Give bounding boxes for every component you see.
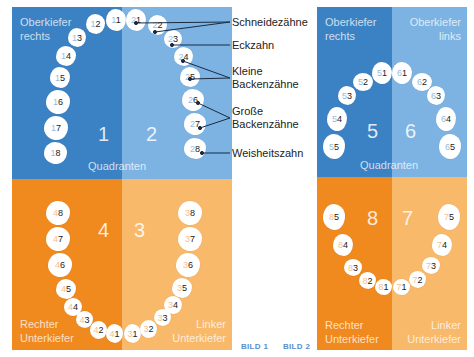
quadrant-2-number: 2 (146, 123, 157, 146)
tooth-81: 81 (375, 279, 392, 295)
tooth-35: 35 (172, 278, 192, 298)
tooth-37: 37 (178, 227, 202, 251)
tooth-23: 23 (164, 30, 182, 48)
tooth-12: 12 (86, 14, 105, 34)
tooth-45: 45 (56, 279, 76, 299)
quadrant-6-label: Oberkiefer links (410, 15, 461, 43)
tooth-17: 17 (44, 116, 68, 140)
tooth-51: 51 (372, 62, 392, 84)
label-line: Oberkiefer (325, 15, 376, 29)
quadrant-8-label: Rechter Unterkiefer (325, 318, 379, 346)
tooth-82: 82 (359, 272, 376, 289)
bild1-diagram: Oberkiefer rechts 1 2 Quadranten 4 Recht… (12, 7, 232, 350)
label-line: Rechter (20, 317, 74, 331)
tooth-25: 25 (180, 67, 200, 87)
quadrant-7-number: 7 (402, 207, 413, 230)
tooth-41: 41 (106, 324, 123, 343)
tooth-71: 71 (393, 279, 410, 295)
tooth-85: 85 (323, 204, 345, 230)
tooth-34: 34 (164, 296, 182, 314)
quadrant-5-number: 5 (367, 120, 378, 143)
quadrant-6-number: 6 (405, 120, 416, 143)
quadranten-label: Quadranten (88, 160, 146, 172)
label-line: Rechter (325, 318, 379, 332)
tooth-52: 52 (353, 73, 373, 91)
label-line: Unterkiefer (20, 331, 74, 345)
tooth-13: 13 (68, 28, 86, 47)
quadranten-label: Quadranten (360, 159, 418, 171)
label-line: links (410, 29, 461, 43)
tooth-46: 46 (48, 253, 72, 277)
tooth-83: 83 (344, 259, 362, 276)
tooth-42: 42 (90, 321, 107, 339)
quadrant-1-number: 1 (98, 123, 109, 146)
quadrant-8-number: 8 (367, 207, 378, 230)
tooth-53: 53 (338, 86, 356, 105)
quadrant-3-number: 3 (134, 219, 145, 242)
tooth-21: 21 (126, 9, 146, 31)
tooth-32: 32 (140, 320, 157, 338)
tooth-36: 36 (176, 253, 200, 277)
quadrant-4-number: 4 (98, 219, 109, 242)
tooth-24: 24 (174, 47, 193, 66)
label-schneidezaehne: Schneidezähne (232, 16, 308, 29)
label-line: Linker (407, 318, 461, 332)
tooth-22: 22 (148, 15, 167, 35)
tooth-31: 31 (124, 324, 141, 343)
tooth-55: 55 (323, 134, 345, 159)
label-weisheitszahn: Weisheitszahn (232, 147, 303, 160)
tooth-15: 15 (50, 67, 70, 88)
tooth-48: 48 (46, 201, 70, 225)
tooth-64: 64 (436, 107, 456, 131)
tooth-47: 47 (46, 227, 70, 251)
tooth-28: 28 (184, 138, 206, 159)
tooth-61: 61 (392, 62, 412, 84)
label-kleine-backenzaehne: Kleine Backenzähne (232, 65, 299, 91)
label-line: rechts (20, 29, 71, 43)
tooth-38: 38 (178, 201, 202, 225)
tooth-73: 73 (422, 257, 440, 274)
label-line: Linker (172, 317, 226, 331)
tooth-75: 75 (438, 204, 460, 230)
tooth-26: 26 (182, 89, 204, 111)
quadrant-3-label: Linker Unterkiefer (172, 317, 226, 345)
tooth-63: 63 (427, 86, 445, 105)
label-line: rechts (325, 29, 376, 43)
tooth-16: 16 (46, 90, 70, 114)
quadrant-5-label: Oberkiefer rechts (325, 15, 376, 43)
label-line: Backenzähne (232, 118, 299, 131)
tooth-84: 84 (333, 234, 353, 256)
label-line: Oberkiefer (20, 15, 71, 29)
bild1-caption: BILD 1 (241, 342, 268, 351)
tooth-27: 27 (184, 113, 206, 135)
label-line: Backenzähne (232, 78, 299, 91)
label-line: Oberkiefer (410, 15, 461, 29)
tooth-18: 18 (44, 142, 67, 164)
label-eckzahn: Eckzahn (232, 39, 274, 52)
tooth-14: 14 (56, 46, 76, 66)
label-line: Unterkiefer (407, 332, 461, 346)
quadrant-7-label: Linker Unterkiefer (407, 318, 461, 346)
tooth-65: 65 (439, 134, 461, 159)
label-line: Große (232, 105, 299, 118)
label-line: Unterkiefer (325, 332, 379, 346)
tooth-11: 11 (106, 9, 126, 31)
label-line: Unterkiefer (172, 331, 226, 345)
label-grosse-backenzaehne: Große Backenzähne (232, 105, 299, 131)
quadrant-1-label: Oberkiefer rechts (20, 15, 71, 43)
quadrant-4-label: Rechter Unterkiefer (20, 317, 74, 345)
label-line: Kleine (232, 65, 299, 78)
tooth-72: 72 (409, 271, 426, 288)
tooth-54: 54 (327, 107, 347, 131)
tooth-74: 74 (432, 234, 452, 256)
bild2-diagram: Oberkiefer rechts 5 Oberkiefer links 6 Q… (317, 7, 467, 350)
bild2-caption: BILD 2 (283, 342, 310, 351)
